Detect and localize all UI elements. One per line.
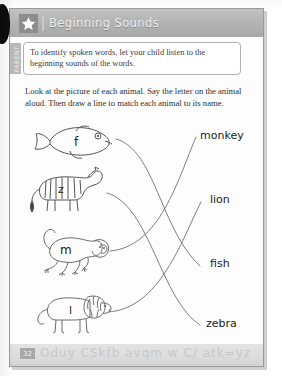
directions-text: Look at the picture of each animal. Say …: [25, 86, 247, 109]
zebra-icon: z: [22, 165, 114, 215]
zebra-letter: z: [58, 183, 64, 196]
monkey-icon: m: [28, 227, 120, 277]
fish-letter: f: [74, 135, 79, 149]
animal-fish: f: [32, 117, 124, 167]
match-line-lion: [108, 202, 201, 312]
worksheet-sheet: Beginning Sounds PARENT To identify spok…: [9, 8, 264, 367]
scanned-page: Beginning Sounds PARENT To identify spok…: [0, 0, 282, 376]
parent-tip-tab-label: PARENT: [12, 45, 19, 71]
lion-letter: l: [69, 304, 72, 317]
animal-zebra: z: [22, 165, 114, 215]
header-divider: [42, 16, 44, 31]
parent-tip-box: To identify spoken words, let your child…: [23, 42, 241, 75]
animal-lion: l: [28, 287, 120, 337]
fish-icon: f: [32, 117, 124, 163]
word-label-zebra[interactable]: zebra: [206, 317, 237, 330]
word-label-fish[interactable]: fish: [210, 257, 230, 270]
lion-icon: l: [28, 287, 120, 337]
monkey-letter: m: [60, 243, 72, 257]
worksheet-header: Beginning Sounds: [10, 9, 263, 37]
animal-monkey: m: [28, 227, 120, 277]
star-icon: [19, 14, 38, 33]
page-number: 32: [20, 348, 35, 359]
match-line-fish: [116, 139, 200, 266]
worksheet-footer: 32 Oduy CSkfb avqm w C/ atk=yz: [10, 344, 263, 366]
footer-decorative-letters: Oduy CSkfb avqm w C/ atk=yz: [40, 346, 251, 360]
word-label-lion[interactable]: lion: [210, 193, 230, 206]
matching-activity: f: [10, 109, 263, 339]
parent-tip-text: To identify spoken words, let your child…: [30, 47, 234, 69]
parent-tip-row: PARENT To identify spoken words, let you…: [10, 42, 263, 76]
match-line-zebra: [107, 193, 200, 325]
parent-tip-tab: PARENT: [10, 43, 21, 74]
page-title: Beginning Sounds: [49, 16, 159, 30]
word-label-monkey[interactable]: monkey: [200, 129, 244, 142]
